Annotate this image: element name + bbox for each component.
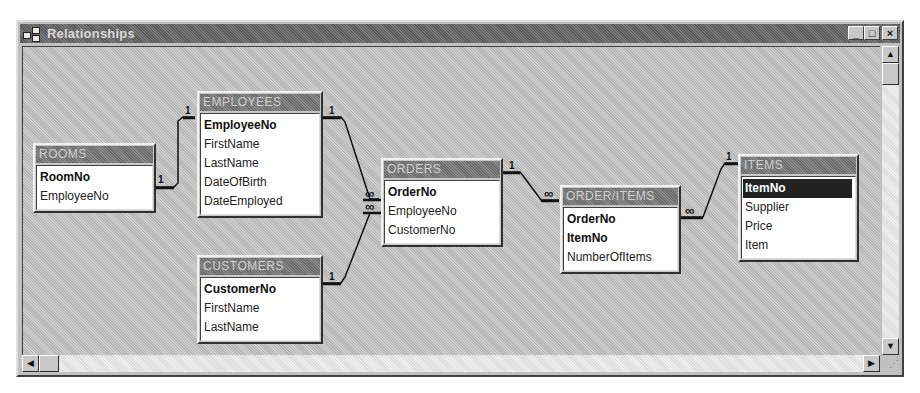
relationship-many-label: ∞: [365, 202, 374, 212]
table-title[interactable]: ORDER/ITEMS: [563, 188, 678, 205]
table-order-items[interactable]: ORDER/ITEMS OrderNo ItemNo NumberOfItems: [560, 185, 681, 274]
minimize-button[interactable]: _: [848, 26, 864, 40]
scroll-up-button[interactable]: ▲: [882, 46, 899, 63]
close-button[interactable]: ×: [882, 26, 898, 40]
scroll-down-button[interactable]: ▼: [882, 338, 899, 355]
field-list: OrderNo EmployeeNo CustomerNo: [384, 180, 500, 244]
title-bar[interactable]: Relationships _ □ ×: [20, 24, 900, 43]
relationship-one-label: 1: [158, 175, 164, 185]
field-item[interactable]: OrderNo: [567, 210, 677, 229]
table-title[interactable]: ORDERS: [384, 161, 500, 178]
field-item[interactable]: LastName: [204, 318, 319, 337]
window-title: Relationships: [47, 26, 135, 41]
scroll-right-button[interactable]: ▶: [863, 355, 880, 372]
relationship-one-label: 1: [185, 106, 191, 116]
table-title[interactable]: ITEMS: [741, 157, 856, 174]
table-customers[interactable]: CUSTOMERS CustomerNo FirstName LastName: [197, 255, 323, 344]
field-item[interactable]: Supplier: [745, 198, 855, 217]
relationship-one-label: 1: [329, 272, 335, 282]
field-list: OrderNo ItemNo NumberOfItems: [563, 207, 678, 271]
table-items[interactable]: ITEMS ItemNo Supplier Price Item: [738, 154, 859, 262]
relationships-canvas[interactable]: 1 1 1 ∞ 1 ∞ 1 ∞ 1 ∞ ROOMS RoomNo Employe…: [22, 46, 880, 355]
table-rooms[interactable]: ROOMS RoomNo EmployeeNo: [33, 143, 156, 213]
vertical-scrollbar[interactable]: ▲ ▼: [882, 46, 899, 355]
horizontal-scroll-thumb[interactable]: [39, 355, 59, 372]
table-title[interactable]: CUSTOMERS: [200, 258, 320, 275]
field-list: ItemNo Supplier Price Item: [741, 176, 856, 259]
field-item[interactable]: DateOfBirth: [204, 173, 319, 192]
field-item[interactable]: Item: [745, 236, 855, 255]
field-item[interactable]: EmployeeNo: [40, 187, 152, 206]
relationship-many-label: ∞: [544, 189, 553, 199]
relationships-icon: [23, 26, 45, 42]
field-item[interactable]: EmployeeNo: [388, 202, 499, 221]
relationships-window: Relationships _ □ ×: [16, 20, 904, 377]
field-item[interactable]: FirstName: [204, 135, 319, 154]
field-item[interactable]: ItemNo: [567, 229, 677, 248]
horizontal-scrollbar[interactable]: ◀ ▶: [22, 355, 880, 372]
vertical-scroll-thumb[interactable]: [882, 63, 899, 85]
table-title[interactable]: EMPLOYEES: [200, 94, 320, 111]
relationship-one-label: 1: [726, 152, 732, 162]
field-item[interactable]: Price: [745, 217, 855, 236]
field-list: RoomNo EmployeeNo: [36, 165, 153, 210]
field-item[interactable]: LastName: [204, 154, 319, 173]
relationship-many-label: ∞: [685, 206, 694, 216]
relationship-one-label: 1: [329, 106, 335, 116]
field-item[interactable]: NumberOfItems: [567, 248, 677, 267]
maximize-button[interactable]: □: [864, 26, 880, 40]
field-item[interactable]: DateEmployed: [204, 192, 319, 211]
relationship-many-label: ∞: [365, 189, 374, 199]
scroll-left-button[interactable]: ◀: [22, 355, 39, 372]
field-item-selected[interactable]: ItemNo: [743, 179, 852, 198]
field-list: EmployeeNo FirstName LastName DateOfBirt…: [200, 113, 320, 215]
table-title[interactable]: ROOMS: [36, 146, 153, 163]
table-employees[interactable]: EMPLOYEES EmployeeNo FirstName LastName …: [197, 91, 323, 218]
field-item[interactable]: CustomerNo: [204, 280, 319, 299]
field-list: CustomerNo FirstName LastName: [200, 277, 320, 341]
relationship-one-label: 1: [509, 161, 515, 171]
field-item[interactable]: FirstName: [204, 299, 319, 318]
field-item[interactable]: RoomNo: [40, 168, 152, 187]
resize-grip-icon[interactable]: ⋰: [882, 355, 899, 372]
field-item[interactable]: OrderNo: [388, 183, 499, 202]
table-orders[interactable]: ORDERS OrderNo EmployeeNo CustomerNo: [381, 158, 503, 247]
field-item[interactable]: CustomerNo: [388, 221, 499, 240]
field-item[interactable]: EmployeeNo: [204, 116, 319, 135]
